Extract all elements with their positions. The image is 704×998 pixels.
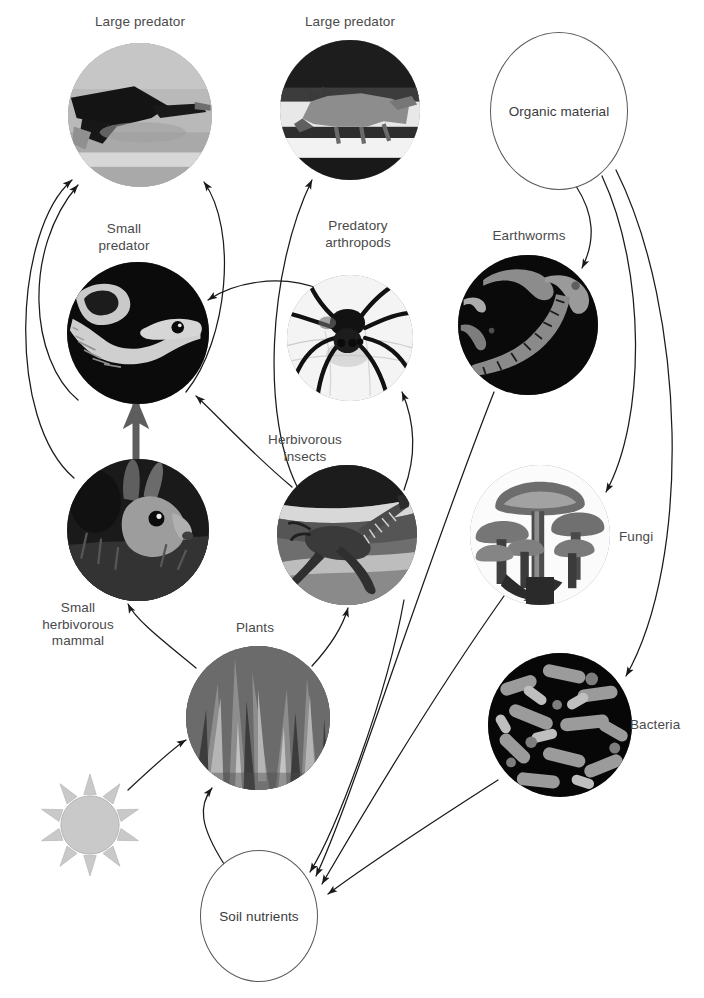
label-organic-material: Organic material xyxy=(509,104,610,119)
node-small-herbivorous-mammal xyxy=(67,459,209,601)
label-small-herbivorous-mammal: Small herbivorous mammal xyxy=(42,600,114,650)
label-predatory-arthropods: Predatory arthropods xyxy=(325,218,391,251)
label-fungi: Fungi xyxy=(619,529,653,546)
label-herbivorous-insects: Herbivorous insects xyxy=(268,432,342,465)
label-plants: Plants xyxy=(236,620,274,637)
node-fungi xyxy=(470,465,610,605)
label-small-predator: Small predator xyxy=(98,221,149,254)
node-small-predator xyxy=(67,262,209,404)
sun-icon xyxy=(38,773,142,877)
label-bacteria: Bacteria xyxy=(630,717,680,734)
node-large-predator-bird xyxy=(68,43,212,187)
node-organic-material: Organic material xyxy=(490,32,628,190)
node-layer: Large predator Large predatorOrganic mat… xyxy=(0,0,704,998)
node-herbivorous-insects xyxy=(277,465,417,605)
food-web-diagram: Large predator Large predatorOrganic mat… xyxy=(0,0,704,998)
label-earthworms: Earthworms xyxy=(492,228,565,245)
node-bacteria xyxy=(488,653,632,797)
node-earthworms xyxy=(458,255,598,395)
node-large-predator-wolf xyxy=(280,40,420,180)
node-plants xyxy=(186,646,330,790)
label-large-predator-wolf: Large predator xyxy=(305,14,395,31)
label-soil-nutrients: Soil nutrients xyxy=(219,909,298,924)
label-large-predator-bird: Large predator xyxy=(95,14,185,31)
node-soil-nutrients: Soil nutrients xyxy=(200,850,318,982)
node-predatory-arthropods xyxy=(287,275,413,401)
